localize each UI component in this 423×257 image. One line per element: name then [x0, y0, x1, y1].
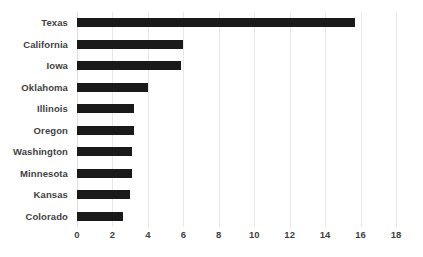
category-label: Oregon [0, 125, 73, 136]
x-tick-label: 16 [355, 229, 366, 240]
bar-row [77, 120, 396, 142]
x-tick-label: 0 [74, 229, 79, 240]
bar [77, 61, 181, 70]
bar-row [77, 98, 396, 120]
category-label: Washington [0, 146, 73, 157]
bar-row [77, 77, 396, 99]
bar-row [77, 34, 396, 56]
category-label: Oklahoma [0, 82, 73, 93]
bar [77, 169, 132, 178]
x-tick-label: 18 [391, 229, 402, 240]
category-label: Minnesota [0, 168, 73, 179]
category-label: Illinois [0, 103, 73, 114]
bar-row [77, 55, 396, 77]
bar [77, 190, 130, 199]
category-label: Iowa [0, 60, 73, 71]
bar-row [77, 163, 396, 185]
bar [77, 126, 134, 135]
category-label: Texas [0, 17, 73, 28]
x-tick-label: 6 [181, 229, 186, 240]
bar-row [77, 12, 396, 34]
category-axis: TexasCaliforniaIowaOklahomaIllinoisOrego… [0, 12, 73, 227]
bar-row [77, 141, 396, 163]
category-label: Kansas [0, 189, 73, 200]
bar [77, 18, 355, 27]
category-label: California [0, 39, 73, 50]
bar [77, 147, 132, 156]
x-tick-label: 12 [284, 229, 295, 240]
bar [77, 40, 183, 49]
x-tick-label: 2 [110, 229, 115, 240]
plot-area [77, 12, 396, 227]
bar-series [77, 12, 396, 227]
category-label: Colorado [0, 211, 73, 222]
bar [77, 212, 123, 221]
bar-row [77, 184, 396, 206]
value-axis: 024681012141618 [77, 229, 396, 245]
gridline [396, 12, 397, 227]
x-tick-label: 14 [320, 229, 331, 240]
bar-row [77, 206, 396, 228]
x-tick-label: 10 [249, 229, 260, 240]
x-tick-label: 4 [145, 229, 150, 240]
bar-chart: TexasCaliforniaIowaOklahomaIllinoisOrego… [0, 0, 423, 257]
x-tick-label: 8 [216, 229, 221, 240]
bar [77, 104, 134, 113]
bar [77, 83, 148, 92]
